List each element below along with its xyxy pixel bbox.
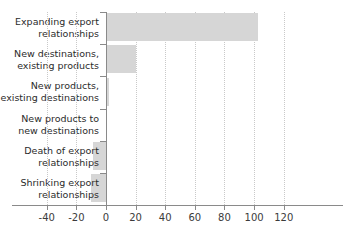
x-axis-tick [76, 205, 77, 210]
x-axis-tick [47, 205, 48, 210]
bar [106, 45, 136, 73]
bar-chart: Expanding export relationshipsNew destin… [0, 0, 361, 240]
gridline [47, 12, 48, 205]
x-axis-tick [254, 205, 255, 210]
y-axis-tick [100, 12, 106, 13]
x-axis-tick [106, 205, 107, 210]
x-axis-line-left [12, 205, 106, 206]
category-label: New products, existing destinations [0, 80, 99, 104]
x-axis-tick-label: 120 [264, 212, 304, 223]
y-axis-tick [100, 173, 106, 174]
y-axis-tick [100, 141, 106, 142]
category-label: New destinations, existing products [0, 48, 99, 72]
category-label: Death of export relationships [0, 145, 99, 169]
bar [106, 13, 258, 41]
x-axis-tick [284, 205, 285, 210]
x-axis-tick [136, 205, 137, 210]
x-axis-tick [165, 205, 166, 210]
y-axis-tick [100, 76, 106, 77]
x-axis-tick [195, 205, 196, 210]
x-axis-tick [224, 205, 225, 210]
y-axis-tick [100, 44, 106, 45]
category-label: Shrinking export relationships [0, 177, 99, 201]
y-axis-tick [100, 109, 106, 110]
category-label: New products to new destinations [0, 113, 99, 137]
gridline [76, 12, 77, 205]
category-label: Expanding export relationships [0, 16, 99, 40]
y-axis-line [106, 12, 107, 205]
